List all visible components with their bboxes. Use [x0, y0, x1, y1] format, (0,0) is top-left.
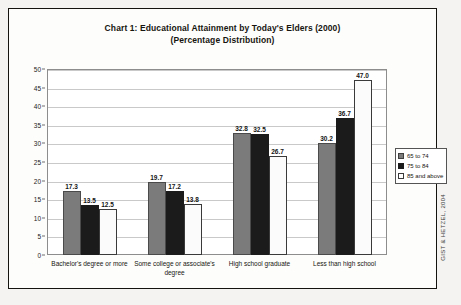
bar-group: 30.236.747.0: [318, 69, 372, 255]
bar: [166, 191, 184, 255]
y-axis-tick-label: 25: [34, 159, 41, 166]
bar-group: 17.313.512.5: [63, 69, 117, 255]
y-axis-tick-mark: [42, 236, 45, 237]
bar-value-label: 47.0: [356, 72, 369, 79]
legend-swatch: [398, 163, 404, 169]
y-axis-tick-label: 20: [34, 177, 41, 184]
y-axis-tick-label: 15: [34, 196, 41, 203]
bar-value-label: 32.8: [235, 125, 248, 132]
legend-swatch: [398, 173, 404, 179]
bar-value-label: 13.5: [83, 197, 96, 204]
y-axis-tick-mark: [42, 162, 45, 163]
bar-value-label: 13.8: [186, 196, 199, 203]
y-axis-tick-label: 0: [37, 252, 41, 259]
bar-value-label: 36.7: [338, 110, 351, 117]
y-axis-tick-mark: [42, 143, 45, 144]
x-axis-category-label: High school graduate: [217, 259, 303, 268]
legend-label: 75 to 84: [407, 163, 429, 169]
bar-group: 32.832.526.7: [233, 69, 287, 255]
y-axis-tick-label: 50: [34, 66, 41, 73]
bar: [269, 156, 287, 255]
legend-item[interactable]: 75 to 84: [398, 161, 443, 171]
y-axis-tick-mark: [42, 255, 45, 256]
chart-subtitle: (Percentage Distribution): [9, 35, 436, 47]
y-axis-tick-mark: [42, 180, 45, 181]
y-axis-tick-label: 40: [34, 103, 41, 110]
y-axis-tick-label: 45: [34, 84, 41, 91]
bar-value-label: 17.3: [65, 183, 78, 190]
legend-label: 65 to 74: [407, 153, 429, 159]
chart-title: Chart 1: Educational Attainment by Today…: [9, 23, 436, 35]
bar: [251, 134, 269, 255]
y-axis: 05101520253035404550: [9, 69, 45, 255]
bar-value-label: 32.5: [253, 126, 266, 133]
y-axis-tick-mark: [42, 87, 45, 88]
chart-title-block: Chart 1: Educational Attainment by Today…: [9, 23, 436, 46]
y-axis-tick-label: 5: [37, 233, 41, 240]
y-axis-tick-mark: [42, 217, 45, 218]
x-axis-category-label: Bachelor's degree or more: [47, 259, 133, 268]
bar-value-label: 30.2: [320, 135, 333, 142]
y-axis-tick-mark: [42, 69, 45, 70]
y-axis-tick-label: 35: [34, 121, 41, 128]
bar-value-label: 12.5: [101, 201, 114, 208]
source-credit: GIST & HETZEL, 2004: [440, 194, 446, 261]
y-axis-tick-mark: [42, 199, 45, 200]
bar: [99, 209, 117, 256]
legend-item[interactable]: 85 and above: [398, 171, 443, 181]
x-axis-category-label: Some college or associate's degree: [132, 259, 218, 277]
bar-group: 19.717.213.8: [148, 69, 202, 255]
y-axis-tick-label: 30: [34, 140, 41, 147]
bars-layer: 17.313.512.519.717.213.832.832.526.730.2…: [47, 69, 387, 255]
bar-value-label: 17.2: [168, 183, 181, 190]
bar: [81, 205, 99, 255]
x-axis-category-label: Less than high school: [302, 259, 388, 268]
bar: [233, 133, 251, 255]
legend-item[interactable]: 65 to 74: [398, 151, 443, 161]
bar-value-label: 26.7: [271, 148, 284, 155]
legend-swatch: [398, 153, 404, 159]
bar: [318, 143, 336, 255]
bar: [184, 204, 202, 255]
bar: [63, 191, 81, 255]
bar: [336, 118, 354, 255]
legend-label: 85 and above: [407, 173, 443, 179]
y-axis-tick-mark: [42, 106, 45, 107]
y-axis-tick-label: 10: [34, 214, 41, 221]
chart-figure: Chart 1: Educational Attainment by Today…: [8, 8, 437, 289]
bar-value-label: 19.7: [150, 174, 163, 181]
y-axis-tick-mark: [42, 124, 45, 125]
bar: [354, 80, 372, 255]
chart-legend: 65 to 7475 to 8485 and above: [395, 148, 447, 184]
bar: [148, 182, 166, 255]
